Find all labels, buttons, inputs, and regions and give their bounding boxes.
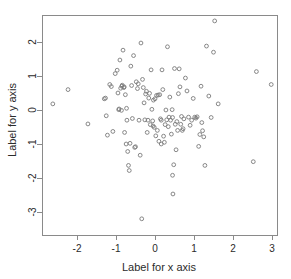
y-tick-label: 2	[27, 39, 38, 45]
x-tick-label: 0	[152, 243, 158, 254]
y-tick-label: -2	[27, 173, 38, 182]
y-tick-label: 0	[27, 107, 38, 113]
y-tick-label: -1	[27, 139, 38, 148]
figure-background	[0, 0, 291, 279]
x-tick-label: 1	[191, 243, 197, 254]
y-tick-label: 1	[27, 73, 38, 79]
x-tick-label: 2	[230, 243, 236, 254]
x-tick-label: 3	[269, 243, 275, 254]
x-tick-label: -1	[112, 243, 121, 254]
scatter-plot-figure: -2-10123 210-1-2-3 Label for x axis Labe…	[0, 0, 291, 279]
y-axis-title: Label for y axis	[6, 83, 18, 157]
x-tick-label: -2	[73, 243, 82, 254]
y-tick-label: -3	[27, 207, 38, 216]
plot-canvas: -2-10123 210-1-2-3 Label for x axis Labe…	[0, 0, 291, 279]
x-axis-title: Label for x axis	[122, 261, 196, 273]
